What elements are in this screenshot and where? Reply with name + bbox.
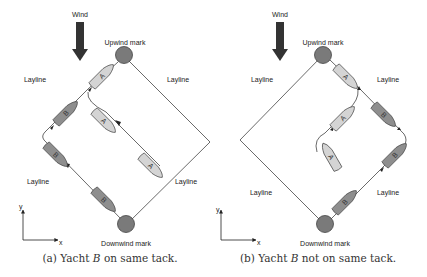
axes-icon: y x bbox=[216, 206, 261, 246]
downwind-mark bbox=[118, 216, 135, 233]
layline-label: Layline bbox=[24, 76, 46, 84]
boat-b: B bbox=[52, 99, 80, 127]
panel-a: Wind Upwind mark Downwind mark Layline L… bbox=[19, 11, 210, 264]
boat-a-track bbox=[88, 92, 160, 166]
layline-label: Layline bbox=[175, 178, 197, 186]
track-arrow-icon bbox=[88, 87, 92, 92]
boat-a: A bbox=[332, 63, 360, 91]
x-axis-label: x bbox=[59, 239, 63, 246]
y-axis-label: y bbox=[19, 203, 23, 211]
boat-b: B bbox=[331, 188, 359, 216]
wind-label: Wind bbox=[272, 11, 288, 18]
track-arrow-icon bbox=[115, 120, 121, 126]
axes-icon: y x bbox=[19, 203, 63, 246]
layline-label: Layline bbox=[27, 178, 49, 186]
boat-b: B bbox=[370, 101, 398, 129]
layline-label: Layline bbox=[167, 76, 189, 84]
layline-label: Layline bbox=[377, 76, 399, 84]
panel-b: Wind Upwind mark Downwind mark Layline L… bbox=[216, 11, 409, 264]
wind-arrow-icon bbox=[72, 22, 88, 61]
caption-b: (b) Yacht B not on same tack. bbox=[240, 252, 396, 264]
boat-a: A bbox=[329, 104, 357, 132]
track-arrow-icon bbox=[50, 125, 54, 130]
y-axis-label: y bbox=[216, 206, 220, 214]
boat-b: B bbox=[90, 186, 118, 214]
boat-b: B bbox=[381, 141, 409, 169]
layline-label: Layline bbox=[251, 76, 273, 84]
sailing-diagram: Wind Upwind mark Downwind mark Layline L… bbox=[0, 0, 427, 277]
caption-a: (a) Yacht B on same tack. bbox=[42, 252, 177, 264]
upwind-mark bbox=[315, 47, 332, 64]
downwind-mark bbox=[317, 216, 334, 233]
boat-a: A bbox=[319, 141, 342, 172]
upwind-mark bbox=[116, 47, 133, 64]
downwind-mark-label: Downwind mark bbox=[101, 240, 151, 247]
wind-arrow-icon bbox=[272, 22, 288, 61]
boat-a: A bbox=[137, 152, 165, 180]
upwind-mark-label: Upwind mark bbox=[105, 39, 146, 47]
downwind-mark-label: Downwind mark bbox=[300, 240, 350, 247]
boat-a: A bbox=[88, 62, 116, 90]
x-axis-label: x bbox=[257, 239, 261, 246]
layline-label: Layline bbox=[377, 189, 399, 197]
boat-b-track bbox=[43, 62, 122, 220]
boat-b-track bbox=[330, 60, 406, 220]
boat-b: B bbox=[42, 141, 70, 169]
upwind-mark-label: Upwind mark bbox=[303, 39, 344, 47]
layline-label: Layline bbox=[250, 189, 272, 197]
wind-label: Wind bbox=[72, 11, 88, 18]
